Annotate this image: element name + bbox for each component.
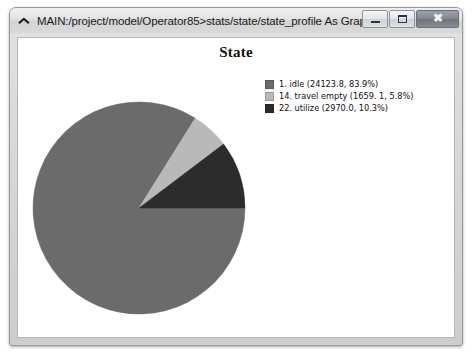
application-window: MAIN:/project/model/Operator85>stats/sta… [9,7,463,346]
legend-item-utilize[interactable]: 22. utilize (2970.0, 10.3%) [265,103,455,115]
minimize-button[interactable] [362,10,388,28]
desktop-background: MAIN:/project/model/Operator85>stats/sta… [0,0,472,357]
pie-chart [31,100,247,316]
legend-swatch-utilize [265,104,274,113]
window-controls: ✖ [362,10,459,28]
pie-slice-group [33,102,245,314]
close-icon: ✖ [433,12,443,24]
legend-item-idle[interactable]: 1. idle (24123.8, 83.9%) [265,79,455,91]
maximize-button[interactable] [389,10,415,28]
legend-label-travel-empty: 14. travel empty (1659. 1, 5.8%) [279,91,414,102]
close-button[interactable]: ✖ [416,10,459,28]
maximize-icon [398,15,407,23]
minimize-icon [371,21,380,23]
legend-label-idle: 1. idle (24123.8, 83.9%) [279,79,378,90]
chart-title: State [18,44,454,61]
chevron-up-icon [16,13,32,29]
legend-swatch-idle [265,80,274,89]
pie-chart-svg [31,100,247,316]
chart-legend: 1. idle (24123.8, 83.9%) 14. travel empt… [265,79,455,115]
legend-swatch-travel-empty [265,92,274,101]
chart-client-area: State 1. idle (24123.8, 83.9%) 14. trave… [17,37,455,338]
legend-label-utilize: 22. utilize (2970.0, 10.3%) [279,103,388,114]
legend-item-travel-empty[interactable]: 14. travel empty (1659. 1, 5.8%) [265,91,455,103]
window-titlebar[interactable]: MAIN:/project/model/Operator85>stats/sta… [10,8,462,33]
